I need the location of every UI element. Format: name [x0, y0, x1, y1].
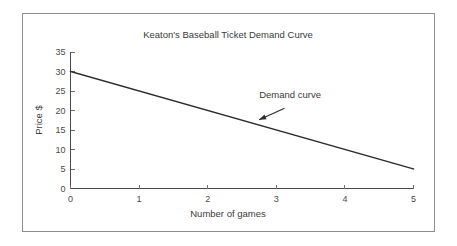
x-tick-label: 2	[205, 194, 210, 204]
y-tick-label: 0	[60, 184, 65, 194]
y-tick-label: 5	[60, 164, 65, 174]
x-tick-label: 1	[137, 194, 142, 204]
y-axis: 05101520253035 Price $	[33, 47, 75, 194]
demand-curve-line	[71, 72, 414, 170]
x-tick-label: 0	[68, 194, 73, 204]
chart-title: Keaton's Baseball Ticket Demand Curve	[143, 29, 313, 40]
x-tick-label: 4	[342, 194, 347, 204]
demand-curve-chart: Keaton's Baseball Ticket Demand Curve 05…	[0, 0, 457, 246]
x-tick-group: 012345	[68, 185, 416, 204]
x-axis-title: Number of games	[190, 208, 266, 219]
y-tick-label: 15	[55, 125, 65, 135]
y-tick-label: 30	[55, 67, 65, 77]
demand-curve-figure: Keaton's Baseball Ticket Demand Curve 05…	[0, 0, 457, 246]
y-tick-label: 20	[55, 106, 65, 116]
demand-curve-annotation-label: Demand curve	[259, 89, 321, 100]
y-tick-label: 35	[55, 47, 65, 57]
y-axis-title: Price $	[33, 105, 44, 135]
y-tick-label: 10	[55, 145, 65, 155]
series-group	[71, 72, 414, 170]
x-tick-label: 5	[411, 194, 416, 204]
annotation-group: Demand curve	[259, 89, 321, 120]
y-tick-group: 05101520253035	[55, 47, 74, 194]
x-axis: 012345 Number of games	[68, 185, 416, 220]
demand-curve-arrow-head	[259, 115, 266, 120]
x-tick-label: 3	[274, 194, 279, 204]
y-tick-label: 25	[55, 86, 65, 96]
